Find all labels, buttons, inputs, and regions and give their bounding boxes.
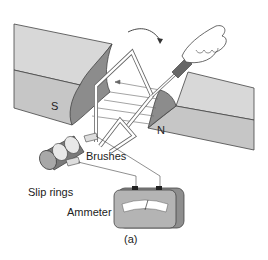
label-slip-rings: Slip rings — [28, 186, 74, 198]
caption: (a) — [124, 233, 137, 245]
label-south-pole: S — [51, 100, 58, 112]
ammeter — [114, 186, 184, 228]
slip-rings — [36, 134, 84, 173]
hand-crank — [172, 26, 226, 78]
rotation-arrow — [128, 29, 160, 40]
generator-diagram: S N Brushes Slip rings Ammeter (a) — [0, 0, 268, 260]
label-brushes: Brushes — [86, 150, 127, 162]
label-ammeter: Ammeter — [67, 206, 112, 218]
label-north-pole: N — [157, 124, 165, 136]
rotation-arrowhead — [157, 38, 163, 44]
